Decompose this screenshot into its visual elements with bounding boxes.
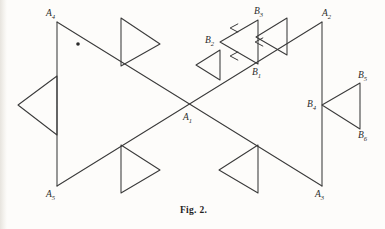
triangle-b1-b2-b3-group xyxy=(220,20,258,64)
flag-triangle-group xyxy=(18,18,287,193)
flag-triangle-bottom-right xyxy=(219,145,258,193)
vertex-label-b5: B5 xyxy=(358,70,367,82)
vertex-label-b6: B6 xyxy=(358,130,367,142)
flag-triangle-top-right xyxy=(256,18,287,55)
vertex-label-a2-subscript: 2 xyxy=(328,13,331,20)
vertex-label-b1: B1 xyxy=(252,67,261,79)
arrow-mark-b3-b2 xyxy=(230,24,238,33)
vertex-label-a1-subscript: 1 xyxy=(189,117,192,124)
vertex-label-a5: A5 xyxy=(46,189,55,201)
triangle-b1-b2-b3 xyxy=(220,20,258,64)
vertex-label-b2: B2 xyxy=(205,35,214,47)
figure-root: A4A2A5A3A1B1B2B3B4B5B6 Fig. 2. xyxy=(0,0,385,229)
flag-triangle-left xyxy=(18,76,57,135)
flag-triangle-top-left xyxy=(121,18,160,66)
vertex-label-a5-subscript: 5 xyxy=(52,194,55,201)
vertex-label-b4: B4 xyxy=(307,99,316,111)
vertex-label-a1: A1 xyxy=(183,112,192,124)
dot-mark-group xyxy=(76,42,80,46)
vertex-label-a3: A3 xyxy=(315,189,324,201)
vertex-label-b3-subscript: 3 xyxy=(260,11,263,18)
vertex-label-b1-subscript: 1 xyxy=(258,72,261,79)
figure-caption: Fig. 2. xyxy=(180,205,207,215)
vertex-label-b4-subscript: 4 xyxy=(313,104,316,111)
dot-mark xyxy=(76,42,80,46)
triangle-b4-b5-b6 xyxy=(322,83,360,129)
figure-canvas xyxy=(0,0,385,229)
vertex-label-b6-subscript: 6 xyxy=(364,135,367,142)
arrow-mark-b2-b1 xyxy=(230,52,238,61)
vertex-label-b5-subscript: 5 xyxy=(364,75,367,82)
main-line-group xyxy=(57,22,322,186)
vertex-label-b2-subscript: 2 xyxy=(211,40,214,47)
vertex-label-a2: A2 xyxy=(322,8,331,20)
triangle-b4-b5-b6-group xyxy=(322,83,360,129)
vertex-label-a4: A4 xyxy=(46,8,55,20)
vertex-label-a4-subscript: 4 xyxy=(52,13,55,20)
flag-triangle-bottom-left xyxy=(121,145,160,193)
vertex-label-a3-subscript: 3 xyxy=(321,194,324,201)
flag-triangle-mid xyxy=(196,50,220,80)
vertex-label-b3: B3 xyxy=(254,6,263,18)
figure-caption-text: Fig. 2. xyxy=(180,205,207,215)
